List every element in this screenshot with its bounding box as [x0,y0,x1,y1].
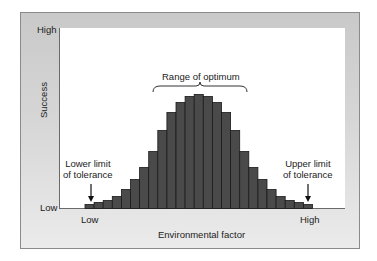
histogram-bar [249,168,258,209]
histogram-bar [194,95,203,209]
histogram-bar [267,190,276,209]
optimum-label: Range of optimum [162,71,240,82]
upper-limit-arrow-icon [305,184,311,202]
histogram-bar [94,203,103,209]
histogram-bars [0,0,377,261]
histogram-bar [131,180,140,209]
histogram-bar [303,205,312,209]
histogram-bar [231,131,240,209]
histogram-bar [140,168,149,209]
histogram-bar [222,113,231,209]
optimum-brace [153,82,247,92]
histogram-bar [285,201,294,209]
upper-limit-label: Upper limit of tolerance [283,158,333,180]
histogram-bar [276,197,285,209]
histogram-bar [112,197,121,209]
histogram-bar [258,180,267,209]
histogram-bar [203,97,212,209]
histogram-bar [85,205,94,209]
histogram-bar [212,103,221,209]
histogram-bar [294,203,303,209]
histogram-bar [149,152,158,209]
histogram-bar [185,97,194,209]
lower-limit-arrow-icon [88,184,94,202]
histogram-bar [158,131,167,209]
histogram-bar [176,103,185,209]
histogram-bar [103,201,112,209]
lower-limit-label: Lower limit of tolerance [63,158,113,180]
histogram-bar [121,190,130,209]
histogram-bar [240,152,249,209]
histogram-bar [167,113,176,209]
